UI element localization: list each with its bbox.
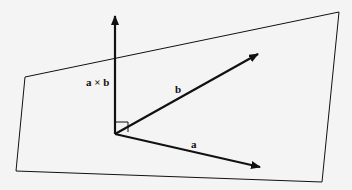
vector-a	[115, 134, 260, 167]
cross-product-diagram: a × b b a	[0, 0, 352, 190]
vector-b	[115, 54, 258, 134]
label-b: b	[175, 83, 181, 95]
label-cross: a × b	[86, 76, 109, 88]
label-a: a	[191, 138, 197, 150]
plane	[16, 12, 339, 182]
